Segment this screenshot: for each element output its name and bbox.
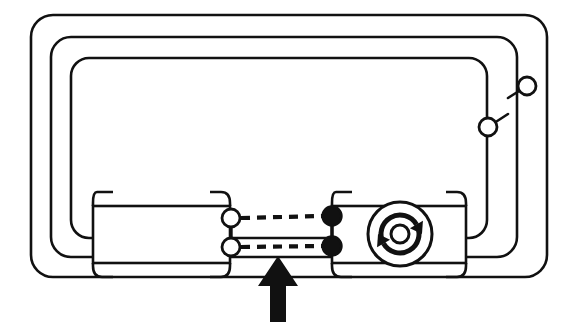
right-pin-lower[interactable] bbox=[323, 237, 342, 256]
rotation-icon-hub bbox=[391, 225, 409, 243]
connector-schematic: Connector interface schematic bbox=[0, 0, 563, 331]
right-pin-upper[interactable] bbox=[323, 207, 342, 226]
switch-node-upper[interactable] bbox=[518, 77, 536, 95]
switch-node-lower[interactable] bbox=[479, 118, 497, 136]
left-module bbox=[93, 206, 230, 263]
left-pin-upper[interactable] bbox=[222, 209, 240, 227]
left-pin-lower[interactable] bbox=[222, 238, 240, 256]
diagram-canvas: Connector interface schematic bbox=[0, 0, 563, 331]
rotation-icon bbox=[368, 202, 432, 266]
